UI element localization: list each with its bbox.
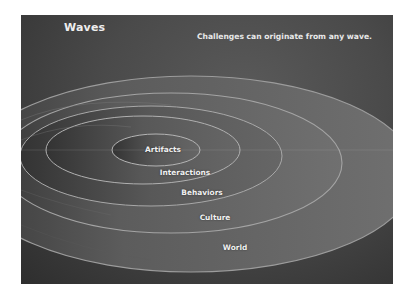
waves-slide: Waves Challenges can originate from any … [21,15,393,284]
concentric-waves-diagram [21,15,393,284]
wave-label-artifacts: Artifacts [145,145,181,154]
wave-label-behaviors: Behaviors [181,188,222,197]
wave-label-interactions: Interactions [160,168,210,177]
slide-title: Waves [64,21,105,34]
wave-label-world: World [223,243,247,252]
slide-subtitle: Challenges can originate from any wave. [197,32,372,41]
wave-label-culture: Culture [200,213,231,222]
